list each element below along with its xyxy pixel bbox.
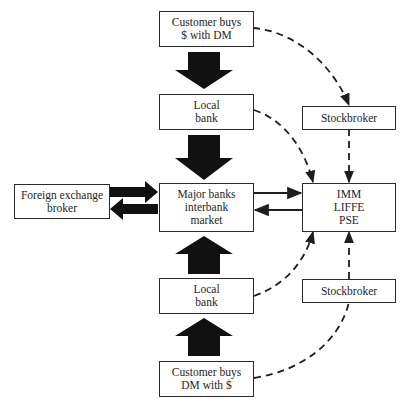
- node-label-line: bank: [195, 296, 217, 309]
- block-arrow-local-bank-bottom-to-major-banks: [175, 236, 233, 274]
- node-exchanges-imm-liffe-pse: IMM LIFFE PSE: [302, 183, 396, 232]
- node-stockbroker-bottom: Stockbroker: [302, 279, 396, 303]
- node-foreign-exchange-broker: Foreign exchange broker: [14, 184, 110, 219]
- node-label-line: Stockbroker: [321, 285, 377, 298]
- node-label-line: Local: [193, 283, 219, 296]
- node-label-line: Customer buys: [172, 366, 241, 379]
- node-major-banks-interbank-market: Major banks interbank market: [159, 183, 254, 232]
- node-label-line: Customer buys: [172, 16, 241, 29]
- node-label-line: interbank: [185, 201, 228, 214]
- node-label-line: bank: [195, 112, 217, 125]
- node-customer-buys-dm: Customer buys DM with $: [159, 361, 254, 397]
- node-label-line: Major banks: [178, 188, 236, 201]
- block-arrow-customer-to-local-bank-top: [175, 52, 233, 89]
- node-label-line: Stockbroker: [321, 112, 377, 125]
- node-label-line: $ with DM: [181, 29, 231, 42]
- thick-arrow-major-banks-to-fx: [110, 198, 158, 220]
- dashed-line-customer-dm-to-stockbroker-bottom: [254, 302, 349, 378]
- thick-arrow-fx-to-major-banks: [110, 181, 158, 203]
- block-arrow-local-bank-top-to-major-banks: [175, 135, 233, 180]
- node-label-line: Local: [193, 99, 219, 112]
- node-local-bank-bottom: Local bank: [159, 278, 254, 314]
- node-local-bank-top: Local bank: [159, 94, 254, 130]
- dashed-arrow-customer-to-stockbroker-top: [253, 28, 349, 105]
- node-label-line: LIFFE: [334, 201, 365, 214]
- node-label-line: Foreign exchange: [21, 189, 103, 202]
- node-label-line: PSE: [339, 214, 359, 227]
- node-customer-buys-dollars: Customer buys $ with DM: [159, 11, 254, 47]
- node-label-line: IMM: [337, 188, 361, 201]
- node-label-line: market: [191, 214, 223, 227]
- block-arrow-customer-dm-to-local-bank-bottom: [175, 318, 233, 356]
- node-label-line: broker: [47, 202, 77, 215]
- node-label-line: DM with $: [181, 379, 231, 392]
- node-stockbroker-top: Stockbroker: [302, 106, 396, 130]
